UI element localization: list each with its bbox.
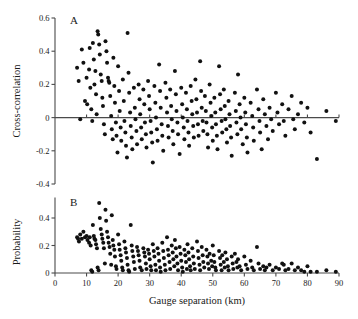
data-point — [179, 252, 183, 256]
data-point — [148, 107, 152, 111]
data-point — [223, 117, 227, 121]
data-point — [105, 230, 109, 234]
data-point — [226, 264, 230, 268]
data-point — [171, 250, 175, 254]
data-point — [293, 127, 297, 131]
panel-b-ytick-label: 0.4 — [39, 213, 50, 223]
data-point — [181, 270, 185, 274]
data-point — [257, 119, 261, 123]
data-point — [166, 124, 170, 128]
data-point — [201, 253, 205, 257]
data-point — [97, 201, 101, 205]
data-point — [296, 112, 300, 116]
data-point — [261, 97, 265, 101]
data-point — [228, 112, 232, 116]
data-point — [170, 117, 174, 121]
data-point — [91, 223, 95, 227]
data-point — [190, 112, 194, 116]
panel-a-ytick-label: -0.4 — [36, 179, 50, 189]
data-point — [324, 268, 328, 272]
data-point — [102, 122, 106, 126]
data-point — [113, 101, 117, 105]
data-point — [130, 249, 134, 253]
data-point — [193, 267, 197, 271]
data-point — [140, 268, 144, 272]
data-point — [80, 48, 84, 52]
data-point — [174, 92, 178, 96]
data-point — [150, 141, 154, 145]
data-point — [119, 259, 123, 263]
data-point — [104, 49, 108, 53]
data-point — [266, 137, 270, 141]
data-point — [92, 82, 96, 86]
panel-a-ylabel: Cross-correlation — [11, 64, 22, 138]
data-point — [211, 244, 215, 248]
data-point — [255, 87, 259, 91]
data-point — [257, 261, 261, 265]
data-point — [239, 127, 243, 131]
data-point — [204, 121, 208, 125]
data-point — [142, 102, 146, 106]
data-point — [129, 124, 133, 128]
data-point — [108, 245, 112, 249]
data-point — [96, 29, 100, 33]
data-point — [251, 126, 255, 130]
data-point — [166, 248, 170, 252]
data-point — [219, 107, 223, 111]
data-point — [145, 267, 149, 271]
panel-b-ytick-label: 0.2 — [39, 241, 50, 251]
data-point — [234, 109, 238, 113]
data-point — [287, 107, 291, 111]
data-point — [293, 268, 297, 272]
data-point — [153, 263, 157, 267]
data-point — [220, 119, 224, 123]
data-point — [305, 264, 309, 268]
data-point — [196, 249, 200, 253]
data-point — [180, 102, 184, 106]
data-point — [229, 136, 233, 140]
data-point — [225, 141, 229, 145]
data-point — [147, 94, 151, 98]
panel-b-ylabel: Probability — [11, 218, 22, 265]
data-point — [157, 62, 161, 66]
data-point — [223, 250, 227, 254]
data-point — [238, 264, 242, 268]
xtick-label: 0 — [53, 278, 57, 288]
data-point — [334, 270, 338, 274]
data-point — [138, 112, 142, 116]
data-point — [132, 86, 136, 90]
data-point — [106, 76, 110, 80]
data-point — [95, 246, 99, 250]
data-point — [100, 237, 104, 241]
data-point — [250, 114, 254, 118]
data-point — [89, 107, 93, 111]
data-point — [92, 58, 96, 62]
data-point — [171, 142, 175, 146]
data-point — [114, 121, 118, 125]
data-point — [234, 121, 238, 125]
data-point — [233, 91, 237, 95]
panel-b-letter: B — [70, 196, 77, 208]
data-point — [103, 261, 107, 265]
data-point — [119, 253, 123, 257]
data-point — [184, 260, 188, 264]
data-point — [157, 259, 161, 263]
xtick-label: 50 — [209, 278, 218, 288]
data-point — [87, 67, 91, 71]
data-point — [296, 266, 300, 270]
data-point — [252, 139, 256, 143]
data-point — [222, 260, 226, 264]
data-point — [132, 260, 136, 264]
data-point — [119, 139, 123, 143]
data-point — [165, 111, 169, 115]
data-point — [106, 235, 110, 239]
data-point — [131, 255, 135, 259]
data-point — [282, 119, 286, 123]
data-point — [110, 127, 114, 131]
data-point — [199, 89, 203, 93]
data-point — [81, 230, 85, 234]
data-point — [187, 144, 191, 148]
data-point — [198, 263, 202, 267]
data-point — [152, 255, 156, 259]
data-point — [171, 257, 175, 261]
